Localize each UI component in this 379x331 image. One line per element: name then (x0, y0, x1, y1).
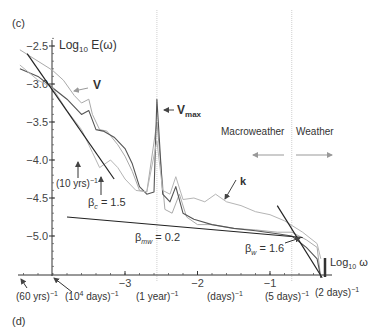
x-tick-label: −2 (191, 277, 204, 289)
panel-label-d: (d) (12, 315, 25, 327)
y-tick-label: −3.5 (26, 116, 48, 128)
svg-text:Weather: Weather (296, 126, 334, 137)
annotation-macroweather: Macroweather (221, 126, 285, 155)
y-axis-label: Log10 E(ω) (59, 38, 117, 54)
y-tick-label: −2.5 (26, 40, 48, 52)
y-tick-label: −5.0 (26, 230, 48, 242)
svg-text:Macroweather: Macroweather (221, 126, 285, 137)
svg-text:Vmax: Vmax (177, 103, 202, 119)
annotation-ten-years: (10 yrs)−1 (56, 162, 98, 189)
svg-text:(1 year)−1: (1 year)−1 (136, 290, 179, 302)
y-tick-label: −4.0 (26, 154, 48, 166)
svg-text:(2 days)−1: (2 days)−1 (315, 286, 359, 298)
annotation-weather: Weather (296, 126, 334, 155)
svg-text:(60 yrs)−1: (60 yrs)−1 (16, 290, 58, 302)
y-ticks: −2.5−3.0−3.5−4.0−4.5−5.0 (26, 40, 55, 242)
period-label-five-days: (5 days)−1 (265, 290, 309, 302)
period-label-one-year: (1 year)−1 (136, 290, 179, 302)
annotation-vmax: Vmax (164, 103, 202, 119)
annotation-beta-mw: βmw = 0.2 (135, 231, 180, 245)
annotation-v: V (74, 78, 101, 92)
svg-text:V: V (93, 78, 101, 92)
spectrum-chart: (c) (d) −2.5−3.0−3.5−4.0−4.5−5.0 −3−2−1 … (0, 0, 379, 331)
period-label-days: (days)−1 (207, 290, 243, 302)
svg-text:βw = 1.6: βw = 1.6 (245, 242, 284, 256)
series-line-k (20, 65, 321, 259)
svg-text:(5 days)−1: (5 days)−1 (265, 290, 309, 302)
svg-text:βc = 1.5: βc = 1.5 (88, 196, 126, 210)
fit-line-beta-mw (67, 217, 303, 238)
svg-text:k: k (240, 175, 247, 187)
period-label-two-days: (2 days)−1 (315, 286, 359, 298)
y-tick-label: −4.5 (26, 192, 48, 204)
period-label-ten-thousand-days: (104 days)−1 (54, 278, 119, 302)
svg-text:βmw = 0.2: βmw = 0.2 (135, 231, 180, 245)
svg-text:(days)−1: (days)−1 (207, 290, 243, 302)
x-tick-label: −1 (264, 277, 277, 289)
period-label-sixty-years: (60 yrs)−1 (16, 279, 58, 302)
svg-text:(104 days)−1: (104 days)−1 (65, 290, 119, 302)
svg-text:(10 yrs)−1: (10 yrs)−1 (56, 177, 98, 189)
annotation-k: k (225, 175, 247, 199)
x-axis-label: Log10 ω (330, 256, 368, 270)
x-tick-label: −3 (119, 277, 132, 289)
x-ticks: −3−2−1 (119, 271, 277, 289)
panel-label-c: (c) (12, 17, 25, 29)
